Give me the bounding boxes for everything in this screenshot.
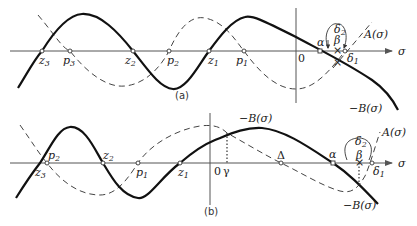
label-A-sigma-a: A(σ) xyxy=(363,28,388,41)
caption-a: (a) xyxy=(175,90,189,101)
pole-p2-a xyxy=(167,49,171,53)
pole-p3-a xyxy=(68,49,72,53)
label-delta1-b: δ1 xyxy=(373,165,385,179)
label-origin-b: 0 xyxy=(214,165,221,178)
label-beta-b: β xyxy=(355,149,362,162)
label-z2-b: z2 xyxy=(102,149,114,163)
panel-a: × × z3 p3 z2 p2 z1 p1 0 α β δ2 δ1 A(σ) σ… xyxy=(10,8,406,115)
zero-z3-a xyxy=(40,49,44,53)
solid-curve-b xyxy=(16,127,378,204)
label-negB-b: −B(σ) xyxy=(343,199,376,212)
point-alpha-b xyxy=(331,161,335,165)
intersection-cross-a: × xyxy=(333,56,342,69)
label-Delta-b: Δ xyxy=(277,149,285,162)
label-negB-top-b: −B(σ) xyxy=(239,112,272,125)
point-alpha-a xyxy=(318,49,322,53)
label-z2-a: z2 xyxy=(124,54,136,68)
label-delta2-b: δ2 xyxy=(355,135,367,149)
label-sigma-axis-b: σ xyxy=(398,157,406,170)
label-p2-b: p2 xyxy=(48,149,60,163)
label-A-sigma-b: A(σ) xyxy=(381,126,406,139)
label-negB-a: −B(σ) xyxy=(349,102,382,115)
zero-z1-a xyxy=(207,49,211,53)
label-p2-a: p2 xyxy=(167,54,179,68)
zero-z1-b xyxy=(178,161,182,165)
label-alpha-a: α xyxy=(317,36,325,49)
label-p1-b: p1 xyxy=(136,166,148,180)
label-p3-a: p3 xyxy=(63,54,75,68)
label-delta2-a: δ2 xyxy=(334,23,346,37)
caption-b: (b) xyxy=(204,206,218,217)
label-origin-a: 0 xyxy=(298,52,305,65)
label-z3-b: z3 xyxy=(34,166,46,180)
panel-b: × z3 p2 z2 p1 z1 0 γ Δ α β δ2 δ1 A(σ) σ … xyxy=(10,112,406,217)
root-locus-figure: × × z3 p3 z2 p2 z1 p1 0 α β δ2 δ1 A(σ) σ… xyxy=(0,0,417,226)
label-delta1-a: δ1 xyxy=(347,52,359,66)
label-sigma-axis-a: σ xyxy=(398,45,406,58)
label-gamma-b: γ xyxy=(223,165,230,178)
pole-p1-a xyxy=(242,49,246,53)
label-z3-a: z3 xyxy=(38,54,50,68)
zero-z2-a xyxy=(131,49,135,53)
label-z1-a: z1 xyxy=(207,54,219,68)
pole-p1-b xyxy=(136,161,140,165)
label-alpha-b: α xyxy=(329,148,337,161)
label-p1-a: p1 xyxy=(236,54,248,68)
label-z1-b: z1 xyxy=(177,166,189,180)
dashed-curve-b xyxy=(20,125,380,195)
